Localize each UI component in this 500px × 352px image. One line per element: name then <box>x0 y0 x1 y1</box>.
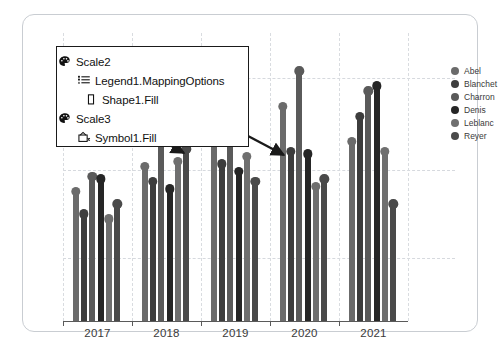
bar-stem <box>349 140 355 321</box>
callout-row-label: Shape1.Fill <box>102 94 158 106</box>
x-axis-line <box>63 321 408 322</box>
bar-stem <box>365 90 371 321</box>
lollipop-bar[interactable] <box>305 153 311 321</box>
lollipop-bar[interactable] <box>142 165 148 321</box>
lollipop-bar[interactable] <box>98 178 104 321</box>
legend-item-label: Reyer <box>464 131 487 141</box>
legend-swatch-icon <box>451 67 459 75</box>
bar-stem <box>183 148 189 321</box>
legend-swatch-icon <box>451 132 459 140</box>
lollipop-bar[interactable] <box>357 115 363 321</box>
legend-swatch-icon <box>451 106 459 114</box>
bar-stem <box>175 160 181 321</box>
legend-item-label: Charron <box>464 92 495 102</box>
bar-stem <box>236 170 242 321</box>
bar-stem <box>81 213 87 321</box>
palette-icon <box>57 111 73 127</box>
lollipop-bar[interactable] <box>313 186 319 321</box>
palette-icon <box>57 54 73 70</box>
callout-row-legend1-mappingoptions[interactable]: Legend1.MappingOptions <box>57 71 248 90</box>
bar-stem <box>357 115 363 321</box>
legend-item-charron[interactable]: Charron <box>451 91 500 103</box>
lollipop-bar[interactable] <box>382 150 388 321</box>
lollipop-bar[interactable] <box>288 150 294 321</box>
bar-stem <box>288 150 294 321</box>
lollipop-bar[interactable] <box>81 213 87 321</box>
lollipop-bar[interactable] <box>374 85 380 321</box>
bar-stem <box>244 155 250 321</box>
chart-card: 20172018201920202021 AbelBlanchetCharron… <box>22 14 478 332</box>
callout-row-label: Legend1.MappingOptions <box>95 75 225 87</box>
bar-stem <box>150 180 156 321</box>
x-tick-label-2017: 2017 <box>84 327 110 339</box>
x-tick-mark <box>132 321 133 326</box>
lollipop-bar[interactable] <box>244 155 250 321</box>
chart-legend: AbelBlanchetCharronDenisLeblancReyer <box>451 65 500 143</box>
bar-stem <box>390 203 396 321</box>
lollipop-bar[interactable] <box>175 160 181 321</box>
lollipop-bar[interactable] <box>296 70 302 321</box>
x-tick-mark <box>63 321 64 326</box>
bar-stem <box>219 163 225 321</box>
legend-item-denis[interactable]: Denis <box>451 104 500 116</box>
gridline-vertical <box>270 33 271 321</box>
legend-item-blanchet[interactable]: Blanchet <box>451 78 500 90</box>
lollipop-bar[interactable] <box>321 178 327 321</box>
legend-item-reyer[interactable]: Reyer <box>451 130 500 142</box>
x-tick-label-2020: 2020 <box>291 327 317 339</box>
lollipop-bar[interactable] <box>114 203 120 321</box>
bar-stem <box>142 165 148 321</box>
mapping-options-icon <box>76 73 92 89</box>
bar-stem <box>89 175 95 321</box>
lollipop-bar[interactable] <box>236 170 242 321</box>
bar-stem <box>382 150 388 321</box>
bar-stem <box>158 140 164 321</box>
gridline-vertical <box>408 33 409 321</box>
gridline-horizontal <box>63 170 455 171</box>
gridline-vertical <box>339 33 340 321</box>
lollipop-bar[interactable] <box>106 218 112 321</box>
bar-stem <box>374 85 380 321</box>
callout-row-scale2[interactable]: Scale2 <box>57 52 248 71</box>
lollipop-bar[interactable] <box>183 148 189 321</box>
bar-stem <box>106 218 112 321</box>
legend-item-label: Abel <box>464 66 481 76</box>
lollipop-bar[interactable] <box>349 140 355 321</box>
lollipop-bar[interactable] <box>390 203 396 321</box>
legend-item-abel[interactable]: Abel <box>451 65 500 77</box>
lollipop-bar[interactable] <box>73 191 79 321</box>
lollipop-bar[interactable] <box>280 105 286 321</box>
lollipop-bar[interactable] <box>150 180 156 321</box>
callout-row-scale3[interactable]: Scale3 <box>57 109 248 128</box>
bar-stem <box>313 186 319 321</box>
legend-swatch-icon <box>451 93 459 101</box>
callout-row-symbol1-fill[interactable]: Symbol1.Fill <box>57 128 248 147</box>
lollipop-bar[interactable] <box>89 175 95 321</box>
bar-stem <box>211 130 217 321</box>
bar-stem <box>98 178 104 321</box>
legend-item-label: Denis <box>464 105 486 115</box>
x-tick-mark <box>270 321 271 326</box>
bar-stem <box>296 70 302 321</box>
shape-rect-icon <box>83 92 99 108</box>
bar-stem <box>305 153 311 321</box>
lollipop-bar[interactable] <box>167 188 173 321</box>
lollipop-bar[interactable] <box>158 140 164 321</box>
x-tick-mark <box>339 321 340 326</box>
callout-row-label: Symbol1.Fill <box>95 132 156 144</box>
bar-stem <box>321 178 327 321</box>
lollipop-bar[interactable] <box>252 180 258 321</box>
bar-stem <box>280 105 286 321</box>
callout-row-shape1-fill[interactable]: Shape1.Fill <box>57 90 248 109</box>
annotation-callout-box: Scale2Legend1.MappingOptionsShape1.FillS… <box>56 46 249 147</box>
bar-stem <box>252 180 258 321</box>
lollipop-bar[interactable] <box>219 163 225 321</box>
lollipop-bar[interactable] <box>211 130 217 321</box>
callout-row-label: Scale2 <box>76 56 111 68</box>
lollipop-bar[interactable] <box>365 90 371 321</box>
legend-swatch-icon <box>451 80 459 88</box>
legend-item-label: Leblanc <box>464 118 494 128</box>
callout-row-label: Scale3 <box>76 113 111 125</box>
legend-item-leblanc[interactable]: Leblanc <box>451 117 500 129</box>
bar-stem <box>167 188 173 321</box>
